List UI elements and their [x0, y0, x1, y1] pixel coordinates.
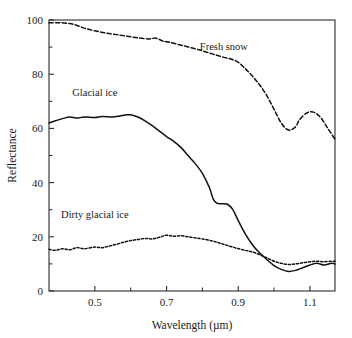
- y-tick-label: 80: [32, 68, 44, 80]
- series-curve-fresh-snow: [49, 23, 335, 140]
- y-tick-label: 20: [32, 231, 44, 243]
- y-tick-label: 60: [32, 122, 44, 134]
- series-curve-dirty-glacial-ice: [49, 235, 335, 264]
- spectral-reflectance-chart: 0.50.70.91.1020406080100Wavelength (µm)R…: [0, 0, 352, 338]
- chart-svg: 0.50.70.91.1020406080100Wavelength (µm)R…: [0, 0, 352, 338]
- series-label-fresh-snow: Fresh snow: [200, 41, 249, 52]
- y-tick-label: 0: [38, 285, 44, 297]
- y-tick-label: 40: [32, 177, 44, 189]
- x-tick-label: 0.5: [88, 296, 102, 308]
- x-tick-label: 0.9: [231, 296, 245, 308]
- y-tick-label: 100: [27, 14, 44, 26]
- x-tick-label: 1.1: [303, 296, 317, 308]
- series-label-dirty-glacial-ice: Dirty glacial ice: [61, 209, 129, 220]
- plot-frame: [49, 20, 335, 291]
- x-axis-title: Wavelength (µm): [152, 319, 233, 332]
- y-axis-title: Reflectance: [6, 128, 18, 182]
- x-tick-label: 0.7: [160, 296, 174, 308]
- series-label-glacial-ice: Glacial ice: [72, 87, 118, 98]
